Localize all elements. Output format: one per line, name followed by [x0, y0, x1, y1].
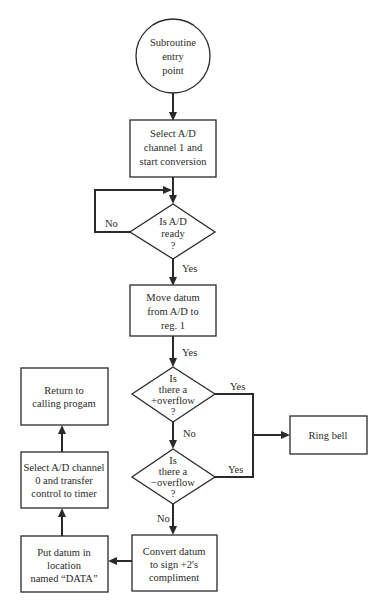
node-ad-ready-line-2: ready [161, 228, 185, 239]
label-yes-pos-overflow: Yes [230, 381, 245, 392]
node-start-line-2: entry [162, 51, 184, 62]
label-no-pos-overflow: No [183, 428, 196, 439]
node-ring-bell: Ring bell [290, 416, 367, 454]
arrowhead [169, 195, 177, 204]
arrowhead [169, 440, 177, 449]
label-yes-neg-overflow: Yes [228, 464, 243, 475]
node-convert-line-3: compliment [149, 572, 199, 583]
node-select-ch1-line-1: Select A/D [150, 128, 196, 139]
node-neg-overflow-line-1: Is [169, 455, 177, 466]
label-yes-move: Yes [182, 347, 197, 358]
node-pos-overflow: Is there a +overflow ? [132, 367, 215, 422]
label-no-neg-overflow: No [157, 513, 170, 524]
arrowhead [169, 358, 177, 367]
node-pos-overflow-line-3: +overflow [151, 395, 195, 406]
node-select-ch1: Select A/D channel 1 and start conversio… [130, 120, 216, 177]
node-pos-overflow-line-4: ? [171, 406, 176, 417]
arrowhead [58, 425, 66, 434]
node-put-datum-line-3: named “DATA” [30, 573, 97, 584]
node-ad-ready-line-3: ? [171, 240, 176, 251]
node-select-ch0-line-2: 0 and transfer [35, 475, 93, 486]
node-convert-line-1: Convert datum [143, 546, 206, 557]
node-ad-ready: Is A/D ready ? [130, 204, 215, 259]
node-move-datum-line-2: from A/D to [147, 306, 198, 317]
node-start: Subroutine entry point [136, 19, 210, 93]
label-no-loop: No [105, 218, 118, 229]
node-select-ch0-line-1: Select A/D channel [23, 462, 104, 473]
node-pos-overflow-line-2: there a [159, 384, 188, 395]
node-move-datum: Move datum from A/D to reg. 1 [130, 285, 216, 336]
node-convert-line-2: to sign +2's [150, 559, 198, 570]
node-neg-overflow-line-2: there a [159, 466, 188, 477]
arrowhead [281, 431, 290, 439]
node-ad-ready-line-1: Is A/D [159, 216, 187, 227]
node-move-datum-line-1: Move datum [146, 292, 199, 303]
node-select-ch0-line-3: control to timer [31, 488, 97, 499]
node-ring-bell-line-1: Ring bell [309, 430, 348, 441]
node-pos-overflow-line-1: Is [169, 373, 177, 384]
node-neg-overflow: Is there a −overflow ? [132, 449, 215, 504]
node-select-ch1-line-2: channel 1 and [144, 142, 203, 153]
node-return-line-1: Return to [44, 385, 83, 396]
node-convert: Convert datum to sign +2's compliment [132, 535, 217, 591]
node-start-line-3: point [162, 65, 184, 76]
process-box [21, 368, 108, 425]
node-put-datum: Put datum in location named “DATA” [21, 536, 108, 592]
node-neg-overflow-line-3: −overflow [151, 477, 195, 488]
arrowhead [163, 186, 172, 194]
node-return: Return to calling progam [21, 368, 108, 425]
label-yes-ready: Yes [182, 263, 197, 274]
node-return-line-2: calling progam [32, 398, 95, 409]
node-start-line-1: Subroutine [150, 37, 196, 48]
arrowhead [169, 526, 177, 535]
flowchart: Subroutine entry point Select A/D channe… [0, 0, 392, 612]
node-put-datum-line-2: location [47, 560, 82, 571]
arrowhead [108, 557, 117, 565]
node-move-datum-line-3: reg. 1 [161, 320, 185, 331]
arrowhead [58, 508, 66, 517]
node-put-datum-line-1: Put datum in [37, 547, 91, 558]
node-neg-overflow-line-4: ? [171, 488, 176, 499]
node-select-ch0: Select A/D channel 0 and transfer contro… [21, 452, 108, 508]
node-select-ch1-line-3: start conversion [140, 156, 208, 167]
